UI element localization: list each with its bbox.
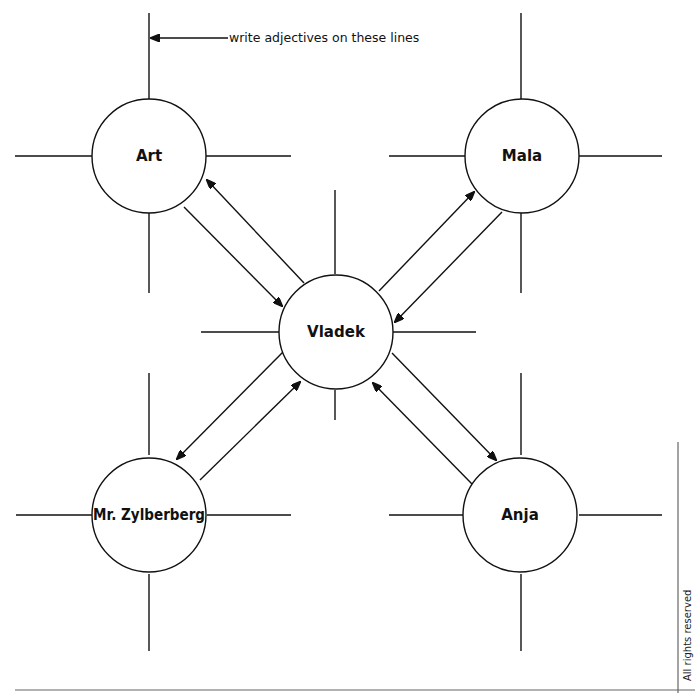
instruction-callout: write adjectives on these lines	[151, 30, 419, 45]
node-anja: Anja	[463, 458, 577, 572]
arrows-vladek-anja	[373, 353, 496, 484]
node-label-anja: Anja	[501, 506, 539, 524]
arrows-vladek-mala	[379, 192, 502, 322]
node-label-zylberberg: Mr. Zylberberg	[93, 506, 205, 524]
node-art: Art	[92, 99, 206, 213]
arrows-vladek-art	[184, 180, 304, 306]
node-label-mala: Mala	[502, 147, 542, 165]
instruction-text: write adjectives on these lines	[229, 30, 419, 45]
node-mala: Mala	[465, 99, 579, 213]
relationship-diagram: write adjectives on these lines Art Mala…	[0, 0, 695, 693]
arrows-vladek-zylberberg	[177, 352, 300, 480]
node-vladek: Vladek	[279, 275, 393, 389]
node-label-art: Art	[136, 147, 162, 165]
rights-notice: All rights reserved	[682, 590, 693, 681]
node-label-vladek: Vladek	[307, 323, 366, 341]
node-zylberberg: Mr. Zylberberg	[92, 458, 206, 572]
